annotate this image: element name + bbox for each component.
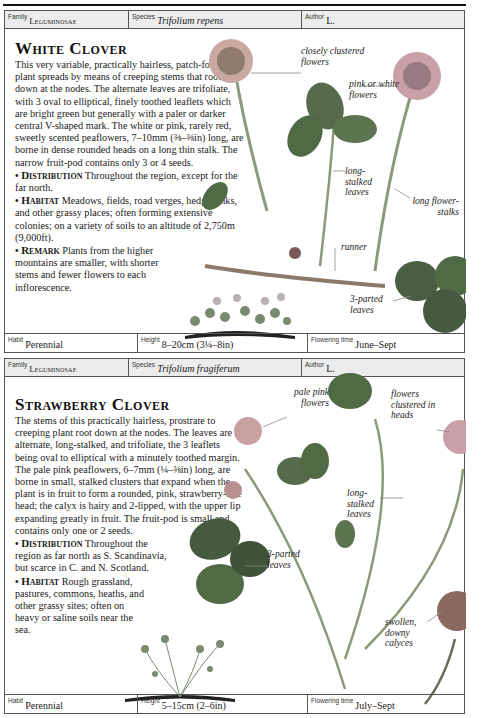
height-label: Height bbox=[141, 336, 160, 343]
habit-label: Habit bbox=[8, 697, 23, 704]
flowering-time-label: Flowering time bbox=[311, 336, 353, 343]
card-footer: Habit Perennial Height 8–20cm (3¼–8in) F… bbox=[5, 333, 464, 352]
annotation-long-stalked-leaves: long-stalked leaves bbox=[345, 166, 387, 198]
annotation-3-parted-leaves: 3-parted leaves bbox=[350, 294, 394, 315]
top-rule bbox=[3, 4, 466, 6]
height-value: 8–20cm (3¼–8in) bbox=[162, 339, 234, 350]
flowering-time-cell: Flowering time July–Sept bbox=[308, 695, 464, 713]
habit-cell: Habit Perennial bbox=[5, 334, 138, 352]
height-label: Height bbox=[141, 697, 160, 704]
card-footer: Habit Perennial Height 5–15cm (2–6in) Fl… bbox=[5, 694, 464, 713]
annotation-pale-pink-flowers: pale pink flowers bbox=[283, 387, 329, 408]
flowering-time-value: June–Sept bbox=[355, 339, 396, 350]
annotation-3-parted-leaves: 3-parted leaves bbox=[267, 549, 309, 570]
habit-value: Perennial bbox=[25, 339, 63, 350]
annotation-swollen-downy-calyces: swollen, downy calyces bbox=[385, 617, 429, 649]
flowering-time-cell: Flowering time June–Sept bbox=[308, 334, 464, 352]
annotation-runner: runner bbox=[341, 242, 367, 253]
species-card-white-clover: Family Leguminosae Species Trifolium rep… bbox=[4, 10, 465, 353]
habit-label: Habit bbox=[8, 336, 23, 343]
annotation-pink-or-white-flowers: pink or white flowers bbox=[349, 79, 419, 100]
habit-cell: Habit Perennial bbox=[5, 695, 138, 713]
annotation-long-flower-stalks: long flower-stalks bbox=[411, 196, 459, 217]
white-clover-illustration bbox=[5, 11, 466, 354]
height-value: 5–15cm (2–6in) bbox=[162, 700, 226, 711]
species-card-strawberry-clover: Family Leguminosae Species Trifolium fra… bbox=[4, 358, 465, 714]
flowering-time-value: July–Sept bbox=[355, 700, 394, 711]
height-cell: Height 8–20cm (3¼–8in) bbox=[138, 334, 308, 352]
flowering-time-label: Flowering time bbox=[311, 697, 353, 704]
annotation-long-stalked-leaves: long-stalked leaves bbox=[347, 488, 387, 520]
annotation-closely-clustered-flowers: closely clustered flowers bbox=[301, 46, 381, 67]
habit-value: Perennial bbox=[25, 700, 63, 711]
annotation-flowers-clustered-in-heads: flowers clustered in heads bbox=[391, 389, 441, 421]
height-cell: Height 5–15cm (2–6in) bbox=[138, 695, 308, 713]
